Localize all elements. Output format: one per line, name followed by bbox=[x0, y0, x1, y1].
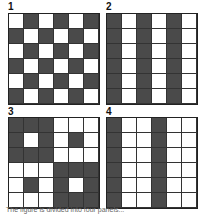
light-cell bbox=[84, 118, 99, 133]
dark-cell bbox=[137, 59, 152, 74]
dark-cell bbox=[152, 193, 167, 208]
dark-cell bbox=[152, 178, 167, 193]
dark-cell bbox=[152, 133, 167, 148]
dark-cell bbox=[84, 44, 99, 59]
dark-cell bbox=[9, 118, 24, 133]
light-cell bbox=[39, 44, 54, 59]
dark-cell bbox=[39, 148, 54, 163]
dark-cell bbox=[107, 74, 122, 89]
dark-cell bbox=[9, 29, 24, 44]
light-cell bbox=[24, 163, 39, 178]
dark-cell bbox=[69, 163, 84, 178]
panel-label: 2 bbox=[106, 2, 112, 12]
light-cell bbox=[137, 118, 152, 133]
light-cell bbox=[122, 89, 137, 104]
dark-cell bbox=[54, 14, 69, 29]
dark-cell bbox=[107, 89, 122, 104]
dark-cell bbox=[24, 148, 39, 163]
light-cell bbox=[69, 148, 84, 163]
dark-cell bbox=[54, 163, 69, 178]
light-cell bbox=[84, 29, 99, 44]
dark-cell bbox=[39, 59, 54, 74]
dark-cell bbox=[167, 14, 182, 29]
light-cell bbox=[122, 14, 137, 29]
light-cell bbox=[152, 89, 167, 104]
light-cell bbox=[54, 59, 69, 74]
dark-cell bbox=[137, 29, 152, 44]
light-cell bbox=[137, 178, 152, 193]
light-cell bbox=[9, 14, 24, 29]
light-cell bbox=[9, 178, 24, 193]
light-cell bbox=[182, 44, 197, 59]
light-cell bbox=[122, 178, 137, 193]
light-cell bbox=[122, 29, 137, 44]
light-cell bbox=[84, 59, 99, 74]
light-cell bbox=[69, 118, 84, 133]
dark-cell bbox=[54, 74, 69, 89]
light-cell bbox=[182, 59, 197, 74]
dark-cell bbox=[167, 44, 182, 59]
light-cell bbox=[54, 89, 69, 104]
light-cell bbox=[69, 14, 84, 29]
light-cell bbox=[69, 74, 84, 89]
dark-cell bbox=[152, 148, 167, 163]
light-cell bbox=[152, 74, 167, 89]
light-cell bbox=[122, 74, 137, 89]
light-cell bbox=[9, 163, 24, 178]
light-cell bbox=[167, 133, 182, 148]
dark-cell bbox=[137, 74, 152, 89]
dark-cell bbox=[9, 148, 24, 163]
light-cell bbox=[122, 133, 137, 148]
dark-cell bbox=[69, 89, 84, 104]
light-cell bbox=[39, 163, 54, 178]
light-cell bbox=[84, 133, 99, 148]
light-cell bbox=[152, 29, 167, 44]
dark-cell bbox=[167, 89, 182, 104]
dark-cell bbox=[39, 89, 54, 104]
light-cell bbox=[182, 193, 197, 208]
light-cell bbox=[137, 133, 152, 148]
pattern-grid bbox=[106, 117, 198, 209]
light-cell bbox=[69, 44, 84, 59]
dark-cell bbox=[152, 163, 167, 178]
dark-cell bbox=[9, 59, 24, 74]
dark-cell bbox=[107, 133, 122, 148]
light-cell bbox=[54, 148, 69, 163]
dark-cell bbox=[69, 133, 84, 148]
dark-cell bbox=[24, 44, 39, 59]
light-cell bbox=[167, 118, 182, 133]
light-cell bbox=[182, 89, 197, 104]
dark-cell bbox=[9, 89, 24, 104]
dark-cell bbox=[107, 178, 122, 193]
light-cell bbox=[167, 178, 182, 193]
light-cell bbox=[9, 44, 24, 59]
light-cell bbox=[137, 193, 152, 208]
pattern-grid bbox=[8, 13, 100, 105]
panel-label: 1 bbox=[8, 2, 14, 12]
panel-label: 3 bbox=[8, 107, 14, 117]
light-cell bbox=[137, 148, 152, 163]
dark-cell bbox=[84, 178, 99, 193]
dark-cell bbox=[24, 118, 39, 133]
dark-cell bbox=[107, 118, 122, 133]
dark-cell bbox=[137, 14, 152, 29]
dark-cell bbox=[107, 44, 122, 59]
light-cell bbox=[182, 148, 197, 163]
light-cell bbox=[182, 163, 197, 178]
light-cell bbox=[167, 193, 182, 208]
light-cell bbox=[69, 178, 84, 193]
light-cell bbox=[122, 44, 137, 59]
dark-cell bbox=[39, 118, 54, 133]
light-cell bbox=[152, 59, 167, 74]
light-cell bbox=[54, 118, 69, 133]
light-cell bbox=[54, 133, 69, 148]
light-cell bbox=[39, 74, 54, 89]
dark-cell bbox=[24, 74, 39, 89]
dark-cell bbox=[69, 59, 84, 74]
dark-cell bbox=[107, 163, 122, 178]
dark-cell bbox=[24, 178, 39, 193]
dark-cell bbox=[39, 29, 54, 44]
dark-cell bbox=[152, 118, 167, 133]
dark-cell bbox=[107, 148, 122, 163]
light-cell bbox=[182, 14, 197, 29]
